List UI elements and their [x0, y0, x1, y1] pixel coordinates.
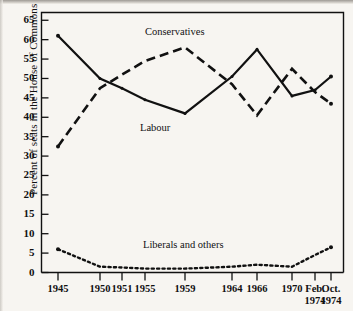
series-point-1-0 [56, 144, 60, 148]
series-point-0-4 [184, 112, 187, 115]
series-line-liberals-and-others [58, 247, 331, 268]
plot-area [0, 0, 353, 311]
figure-container: Percent of seats in the House of Commons… [0, 0, 353, 311]
series-point-0-9 [329, 75, 333, 79]
plot-frame [42, 13, 344, 273]
axis-ticks [42, 20, 332, 280]
series-line-labour [58, 36, 331, 114]
series-line-conservatives [58, 47, 331, 146]
series-point-0-3 [144, 98, 147, 101]
series-point-2-9 [329, 245, 333, 249]
series-point-0-2 [121, 87, 124, 90]
series-point-1-9 [329, 102, 333, 106]
series-point-0-7 [291, 94, 294, 97]
series-point-0-0 [56, 34, 60, 38]
frame-path [42, 13, 344, 273]
series-point-0-1 [99, 77, 102, 80]
series-point-0-6 [256, 48, 259, 51]
data-series [56, 34, 333, 269]
series-point-0-5 [231, 75, 234, 78]
series-point-2-0 [56, 247, 60, 251]
